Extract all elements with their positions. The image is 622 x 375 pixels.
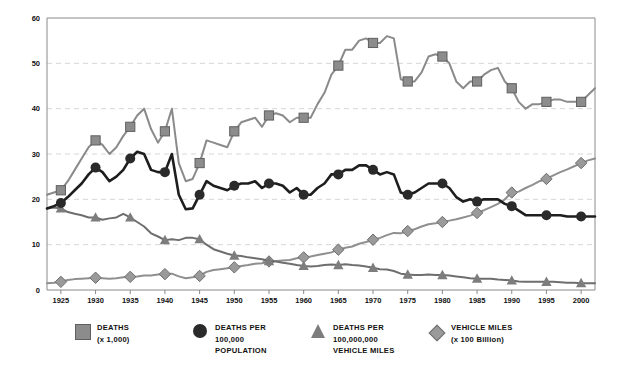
square-data-marker xyxy=(299,113,308,122)
legend-label-deaths-per-vehicle-miles: DEATHS PER 100,000,000 VEHICLE MILES xyxy=(333,322,394,357)
diamond-data-marker xyxy=(194,270,205,281)
legend-label-deaths-per-population: DEATHS PER 100,000 POPULATION xyxy=(215,322,267,357)
x-tick-label: 1930 xyxy=(87,296,104,305)
legend-label-vehicle-miles: VEHICLE MILES (x 100 Billion) xyxy=(451,322,512,345)
legend-item-deaths-per-population[interactable]: DEATHS PER 100,000 POPULATION xyxy=(193,322,311,357)
series-square xyxy=(47,36,595,195)
line-chart-plot: 0102030405060 19251930193519401945195019… xyxy=(0,0,622,320)
triangle-data-marker xyxy=(125,212,135,221)
circle-data-marker xyxy=(56,198,66,208)
diamond-data-marker xyxy=(402,225,413,236)
square-data-marker xyxy=(368,38,377,47)
circle-data-marker xyxy=(91,163,101,173)
square-data-marker xyxy=(56,186,65,195)
diamond-data-marker xyxy=(575,157,586,168)
x-axis-tick-marks xyxy=(61,290,581,294)
x-tick-label: 1940 xyxy=(157,296,174,305)
circle-data-marker xyxy=(541,210,551,220)
circle-data-marker xyxy=(472,197,482,207)
y-tick-label: 50 xyxy=(32,59,40,68)
x-tick-label: 2000 xyxy=(573,296,590,305)
y-tick-label: 0 xyxy=(36,286,40,295)
series-line xyxy=(47,36,595,195)
diamond-data-marker xyxy=(333,244,344,255)
x-tick-label: 1975 xyxy=(399,296,416,305)
series-circle xyxy=(47,152,595,222)
circle-data-marker xyxy=(195,190,205,200)
circle-data-marker xyxy=(368,165,378,175)
square-data-marker xyxy=(438,52,447,61)
y-axis-tick-labels: 0102030405060 xyxy=(32,14,40,295)
x-axis-tick-labels: 1925193019351940194519501955196019651970… xyxy=(53,296,590,305)
legend-line-1: VEHICLE MILES xyxy=(451,323,512,332)
legend-line-2: 100,000,000 xyxy=(333,334,394,346)
legend-item-deaths-per-vehicle-miles[interactable]: DEATHS PER 100,000,000 VEHICLE MILES xyxy=(311,322,429,357)
series-group xyxy=(47,36,595,287)
x-tick-label: 1955 xyxy=(261,296,278,305)
legend-line-2: (x 1,000) xyxy=(97,334,130,346)
diamond-data-marker xyxy=(125,271,136,282)
y-tick-label: 60 xyxy=(32,14,40,23)
legend-item-deaths[interactable]: DEATHS (x 1,000) xyxy=(75,322,193,345)
legend-line-2: (x 100 Billion) xyxy=(451,334,512,346)
circle-data-marker xyxy=(437,178,447,188)
legend-item-vehicle-miles[interactable]: VEHICLE MILES (x 100 Billion) xyxy=(429,322,547,345)
x-tick-label: 1985 xyxy=(469,296,486,305)
chart-legend: DEATHS (x 1,000) DEATHS PER 100,000 POPU… xyxy=(0,322,622,375)
x-tick-label: 1970 xyxy=(365,296,382,305)
diamond-data-marker xyxy=(437,216,448,227)
triangle-marker-icon xyxy=(311,324,326,339)
x-tick-label: 1965 xyxy=(330,296,347,305)
circle-marker-icon xyxy=(193,324,208,339)
square-data-marker xyxy=(507,84,516,93)
square-data-marker xyxy=(334,61,343,70)
series-diamond xyxy=(47,157,595,287)
square-data-marker xyxy=(126,122,135,131)
diamond-data-marker xyxy=(90,272,101,283)
square-data-marker xyxy=(195,158,204,167)
square-data-marker xyxy=(577,97,586,106)
circle-data-marker xyxy=(507,201,517,211)
x-tick-label: 1960 xyxy=(295,296,312,305)
legend-line-1: DEATHS xyxy=(97,323,129,332)
chart-container: 0102030405060 19251930193519401945195019… xyxy=(0,0,622,375)
legend-line-3: VEHICLE MILES xyxy=(333,345,394,357)
x-tick-label: 1950 xyxy=(226,296,243,305)
diamond-marker-icon xyxy=(429,324,444,339)
circle-data-marker xyxy=(333,169,343,179)
legend-line-1: DEATHS PER xyxy=(333,323,384,332)
diamond-data-marker xyxy=(229,262,240,273)
diamond-data-marker xyxy=(367,234,378,245)
circle-data-marker xyxy=(125,154,135,164)
legend-line-2: 100,000 xyxy=(215,334,267,346)
x-tick-label: 1980 xyxy=(434,296,451,305)
circle-data-marker xyxy=(299,190,309,200)
circle-data-marker xyxy=(403,190,413,200)
diamond-data-marker xyxy=(541,173,552,184)
diamond-data-marker xyxy=(471,207,482,218)
legend-line-1: DEATHS PER xyxy=(215,323,266,332)
circle-data-marker xyxy=(229,181,239,191)
diamond-data-marker xyxy=(159,268,170,279)
x-tick-label: 1995 xyxy=(538,296,555,305)
circle-data-marker xyxy=(264,178,274,188)
square-data-marker xyxy=(403,77,412,86)
square-marker-icon xyxy=(75,324,90,339)
square-data-marker xyxy=(230,127,239,136)
y-tick-label: 20 xyxy=(32,195,40,204)
legend-label-deaths: DEATHS (x 1,000) xyxy=(97,322,130,345)
circle-data-marker xyxy=(160,167,170,177)
legend-line-3: POPULATION xyxy=(215,345,267,357)
x-tick-label: 1990 xyxy=(503,296,520,305)
y-tick-label: 30 xyxy=(32,150,40,159)
x-tick-label: 1945 xyxy=(191,296,208,305)
circle-data-marker xyxy=(576,212,586,222)
square-data-marker xyxy=(472,77,481,86)
square-data-marker xyxy=(160,127,169,136)
x-tick-label: 1925 xyxy=(53,296,70,305)
square-data-marker xyxy=(91,136,100,145)
x-tick-label: 1935 xyxy=(122,296,139,305)
square-data-marker xyxy=(264,111,273,120)
square-data-marker xyxy=(542,97,551,106)
y-tick-label: 40 xyxy=(32,104,40,113)
